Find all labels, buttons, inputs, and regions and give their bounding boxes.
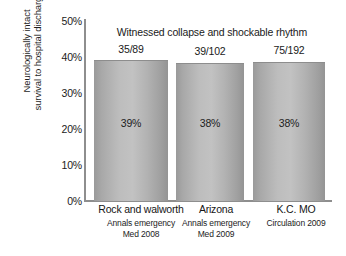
y-tick-50: 50%: [38, 15, 82, 27]
x-category-2: Arizona Annals emergency Med 2009: [168, 203, 264, 239]
bar-kc-mo[interactable]: 38%: [253, 62, 325, 201]
y-tick-20: 20%: [38, 123, 82, 135]
x-category-source-2-line1: Annals emergency: [182, 218, 250, 228]
x-category-name-2: Arizona: [168, 203, 264, 215]
x-category-source-2-line2: Med 2009: [198, 229, 235, 239]
x-category-name-3: K.C. MO: [252, 203, 340, 215]
x-category-source-1-line2: Med 2008: [123, 229, 160, 239]
y-tick-10: 10%: [38, 159, 82, 171]
y-axis-label-line1: Neurologically intact: [21, 10, 32, 93]
y-tick-0: 0%: [38, 195, 82, 207]
x-category-source-2: Annals emergency Med 2009: [168, 218, 264, 239]
bar-value-label-1: 39%: [94, 117, 168, 129]
x-category-source-3: Circulation 2009: [252, 218, 340, 229]
x-category-3: K.C. MO Circulation 2009: [252, 203, 340, 229]
y-axis-tick-labels: 50% 40% 30% 20% 10% 0%: [34, 0, 82, 256]
bar-chart: Neurologically intact survival to hospit…: [0, 0, 346, 256]
plot-area: 35/89 39% 39/102 38% 75/192 38%: [84, 19, 332, 201]
y-tick-40: 40%: [38, 51, 82, 63]
y-tick-30: 30%: [38, 87, 82, 99]
bar-value-label-2: 38%: [176, 117, 244, 129]
bar-rock-and-walworth[interactable]: 39%: [94, 60, 168, 201]
bar-arizona[interactable]: 38%: [176, 63, 244, 201]
bar-value-label-3: 38%: [253, 117, 325, 129]
bar-fraction-label-3: 75/192: [241, 44, 337, 56]
x-category-source-1-line1: Annals emergency: [107, 218, 175, 228]
x-category-source-3-line1: Circulation 2009: [266, 218, 325, 228]
